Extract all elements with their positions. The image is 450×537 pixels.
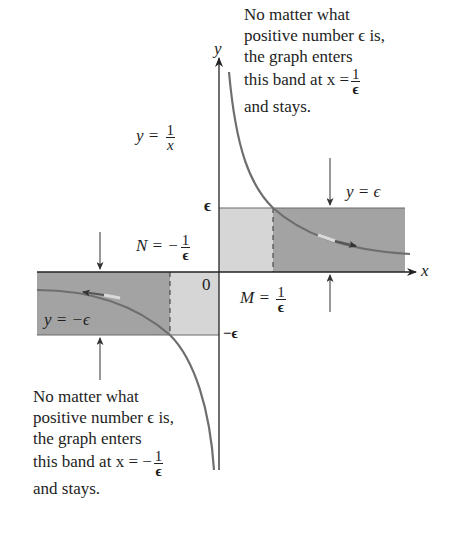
origin-label: 0	[202, 275, 211, 295]
lower-band-label: y = −ϵ	[44, 310, 90, 330]
n-marker-label: N = −1ϵ	[136, 233, 190, 262]
bottom-annotation: No matter what positive number ϵ is, the…	[33, 386, 174, 499]
eps-tick-label: ϵ	[204, 196, 211, 216]
function-label: y = 1x	[136, 123, 175, 152]
upper-band-label: y = ϵ	[346, 182, 380, 202]
upper-band	[219, 208, 405, 272]
top-annotation: No matter what positive number ϵ is, the…	[244, 4, 385, 117]
x-axis-label: x	[421, 261, 429, 281]
neg-eps-tick-label: −ϵ	[223, 325, 238, 342]
m-marker-label: M = 1ϵ	[240, 285, 286, 314]
y-axis-label: y	[214, 39, 222, 59]
